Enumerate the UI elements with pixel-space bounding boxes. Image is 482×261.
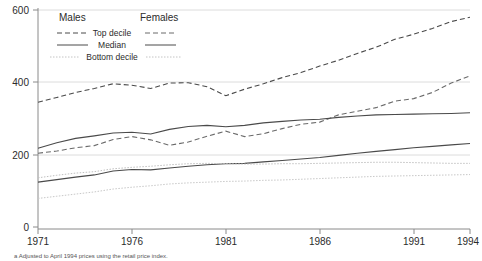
chart-footnote: a Adjusted to April 1994 prices using th…: [14, 253, 168, 259]
y-tick-label-400: 400: [12, 77, 29, 88]
x-tick-label-1991: 1991: [403, 236, 426, 247]
series-females-bottom-decile: [38, 175, 470, 199]
legend-label-top-decile: Top decile: [93, 28, 132, 38]
series-males-bottom-decile: [38, 162, 470, 178]
x-tick-label-1981: 1981: [215, 236, 238, 247]
legend-label-median: Median: [98, 40, 126, 50]
chart-svg: 600 400 200 0 1971 1976 1981 1986 1991 1…: [0, 0, 482, 261]
y-tick-label-600: 600: [12, 5, 29, 16]
y-tick-label-200: 200: [12, 150, 29, 161]
legend-header-females: Females: [140, 12, 178, 23]
x-tick-label-1976: 1976: [121, 236, 144, 247]
legend: Males Females Top decile Median Bottom d…: [50, 12, 182, 62]
y-axis: 600 400 200 0: [12, 5, 38, 233]
legend-label-bottom-decile: Bottom decile: [86, 52, 138, 62]
income-deciles-line-chart: 600 400 200 0 1971 1976 1981 1986 1991 1…: [0, 0, 482, 261]
series-females-median: [38, 143, 470, 182]
x-tick-label-1986: 1986: [309, 236, 332, 247]
x-tick-label-1971: 1971: [27, 236, 50, 247]
x-axis: 1971 1976 1981 1986 1991 1994: [27, 229, 480, 247]
y-tick-label-0: 0: [23, 222, 29, 233]
legend-header-males: Males: [59, 12, 86, 23]
x-tick-label-1994: 1994: [457, 236, 480, 247]
